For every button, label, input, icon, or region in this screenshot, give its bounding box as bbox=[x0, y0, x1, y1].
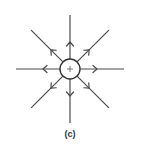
figure-label: (c) bbox=[65, 129, 76, 139]
field-line-up-left bbox=[31, 30, 63, 62]
field-diagram: (c) bbox=[0, 0, 155, 146]
field-line-down-left bbox=[31, 76, 63, 108]
field-line-down-right bbox=[77, 76, 109, 108]
field-line-up-right bbox=[77, 30, 109, 62]
